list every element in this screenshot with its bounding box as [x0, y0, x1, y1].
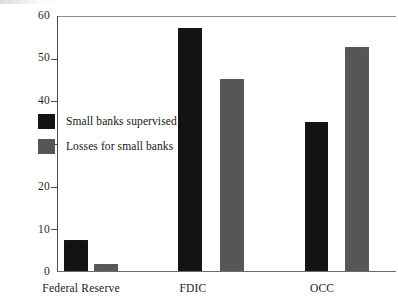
bar-chart-figure: 60 50 40 30 20 10 0 Federal Reserve FDIC…	[0, 0, 398, 305]
y-tick-label-10: 10	[4, 224, 50, 236]
y-tick-label-50: 50	[4, 52, 50, 64]
bar-federal-reserve-supervised	[64, 240, 88, 271]
y-tick-label-0: 0	[4, 266, 50, 278]
bar-federal-reserve-losses	[94, 264, 118, 271]
legend-label-small-banks-supervised: Small banks supervised	[66, 115, 177, 127]
y-tick-mark-50	[51, 59, 57, 60]
y-tick-mark-20	[51, 187, 57, 188]
axis-top-border	[57, 16, 396, 17]
legend-item-losses-for-small-banks: Losses for small banks	[38, 136, 177, 156]
x-axis-label-federal-reserve: Federal Reserve	[21, 282, 141, 294]
y-tick-mark-40	[51, 101, 57, 102]
bar-occ-supervised	[305, 122, 328, 271]
x-axis-label-fdic: FDIC	[158, 282, 228, 294]
legend-swatch-dark-icon	[38, 114, 55, 129]
y-tick-label-20: 20	[4, 181, 50, 193]
bar-fdic-losses	[220, 79, 244, 271]
bar-occ-losses	[345, 47, 369, 271]
legend-label-losses-for-small-banks: Losses for small banks	[66, 140, 173, 152]
y-tick-label-60: 60	[4, 10, 50, 22]
y-tick-label-40: 40	[4, 95, 50, 107]
x-axis-label-occ: OCC	[287, 282, 357, 294]
legend-item-small-banks-supervised: Small banks supervised	[38, 111, 177, 131]
bar-fdic-supervised	[178, 28, 202, 271]
scan-artifact	[0, 0, 60, 4]
axis-x-spine	[57, 271, 396, 272]
y-tick-mark-10	[51, 229, 57, 230]
legend-swatch-gray-icon	[38, 139, 55, 154]
chart-legend: Small banks supervised Losses for small …	[38, 111, 177, 161]
